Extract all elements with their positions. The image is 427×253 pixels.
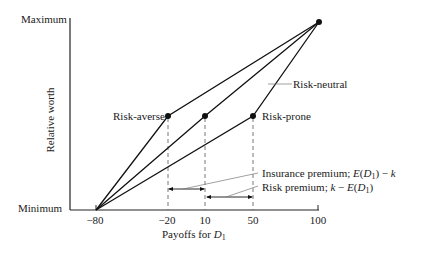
point-risk-neutral xyxy=(202,113,208,119)
y-min-label: Minimum xyxy=(18,202,62,214)
x-tick-label-minus20: −20 xyxy=(158,214,175,226)
point-risk-prone xyxy=(250,113,256,119)
risk-premium-annotation: Risk premium; k − E(D1) xyxy=(262,181,373,197)
point-risk-averse xyxy=(165,113,171,119)
y-axis-label: Relative worth xyxy=(44,87,56,152)
risk-averse-label: Risk-averse xyxy=(113,110,165,122)
y-max-label: Maximum xyxy=(21,13,67,25)
insurance-premium-arrow xyxy=(168,173,258,191)
risk-prone-label: Risk-prone xyxy=(262,110,311,122)
risk-neutral-label: Risk-neutral xyxy=(293,78,347,90)
x-tick-label-10: 10 xyxy=(200,214,211,226)
point-maximum xyxy=(316,19,322,25)
x-tick-label-50: 50 xyxy=(248,214,259,226)
x-tick-label-minus80: −80 xyxy=(86,214,103,226)
risk-premium-arrow xyxy=(206,186,258,199)
x-tick-label-100: 100 xyxy=(310,214,327,226)
x-axis-label: Payoffs for D1 xyxy=(162,228,226,244)
diagram-canvas xyxy=(0,0,427,253)
